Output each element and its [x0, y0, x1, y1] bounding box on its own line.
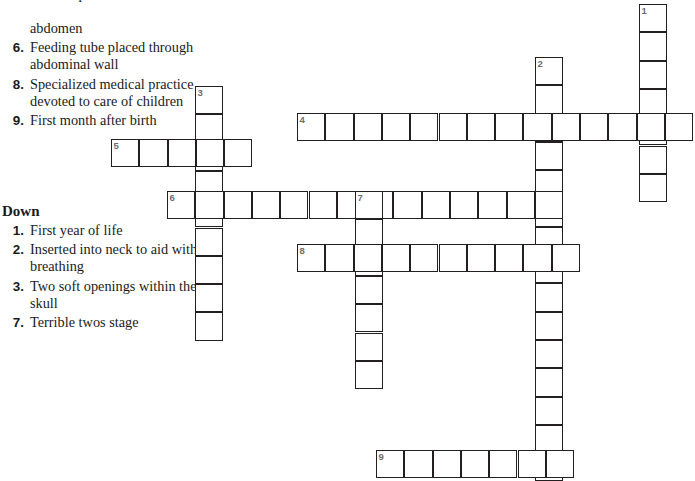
crossword-cell[interactable] — [552, 244, 580, 272]
crossword-cell[interactable] — [439, 244, 467, 272]
crossword-cell[interactable] — [535, 142, 563, 170]
crossword-cell[interactable] — [495, 244, 523, 272]
crossword-cell[interactable] — [552, 113, 580, 141]
crossword-cell[interactable] — [535, 85, 563, 113]
crossword-cell[interactable] — [325, 113, 353, 141]
cell-number: 7 — [358, 192, 363, 203]
crossword-cell[interactable] — [637, 113, 665, 141]
cell-number: 8 — [300, 245, 305, 256]
crossword-cell[interactable] — [195, 312, 223, 340]
crossword-cell[interactable] — [280, 191, 308, 219]
crossword-cell[interactable] — [639, 61, 667, 89]
crossword-cell-start-6[interactable]: 6 — [167, 191, 195, 219]
crossword-cell[interactable] — [195, 228, 223, 256]
crossword-cell-start-9[interactable]: 9 — [376, 450, 404, 478]
cell-number: 5 — [114, 140, 119, 151]
cell-number: 4 — [300, 114, 305, 125]
crossword-cell[interactable] — [439, 113, 467, 141]
crossword-cell-start-7[interactable]: 7 — [355, 191, 383, 219]
crossword-cell[interactable] — [354, 113, 382, 141]
crossword-cell[interactable] — [478, 191, 506, 219]
crossword-cell[interactable] — [535, 191, 563, 219]
crossword-cell[interactable] — [639, 174, 667, 202]
crossword-cell[interactable] — [168, 139, 196, 167]
crossword-cell[interactable] — [665, 113, 693, 141]
crossword-cell[interactable] — [224, 139, 252, 167]
crossword-cell[interactable] — [518, 450, 546, 478]
crossword-cell[interactable] — [546, 450, 574, 478]
crossword-cell[interactable] — [355, 361, 383, 389]
crossword-cell[interactable] — [139, 139, 167, 167]
cell-number: 2 — [538, 58, 543, 69]
crossword-cell[interactable] — [535, 368, 563, 396]
crossword-cell[interactable] — [382, 244, 410, 272]
crossword-cell[interactable] — [196, 139, 224, 167]
crossword-grid[interactable]: 123456789 — [0, 0, 695, 481]
crossword-cell[interactable] — [489, 450, 517, 478]
crossword-cell[interactable] — [393, 191, 421, 219]
crossword-cell[interactable] — [252, 191, 280, 219]
crossword-cell[interactable] — [355, 304, 383, 332]
crossword-cell[interactable] — [354, 244, 382, 272]
crossword-cell-start-4[interactable]: 4 — [297, 113, 325, 141]
crossword-cell[interactable] — [195, 256, 223, 284]
crossword-cell-start-3[interactable]: 3 — [195, 86, 223, 114]
crossword-cell[interactable] — [535, 312, 563, 340]
crossword-cell-start-1[interactable]: 1 — [639, 4, 667, 32]
crossword-cell[interactable] — [580, 113, 608, 141]
crossword-cell[interactable] — [404, 450, 432, 478]
crossword-cell[interactable] — [535, 283, 563, 311]
crossword-cell[interactable] — [535, 425, 563, 453]
crossword-cell[interactable] — [495, 113, 523, 141]
crossword-cell[interactable] — [608, 113, 636, 141]
crossword-cell[interactable] — [410, 113, 438, 141]
crossword-cell[interactable] — [309, 191, 337, 219]
crossword-cell[interactable] — [639, 146, 667, 174]
crossword-cell[interactable] — [422, 191, 450, 219]
crossword-cell[interactable] — [639, 32, 667, 60]
crossword-cell[interactable] — [467, 244, 495, 272]
crossword-cell[interactable] — [382, 113, 410, 141]
cell-number: 3 — [198, 87, 203, 98]
crossword-cell[interactable] — [507, 191, 535, 219]
crossword-cell[interactable] — [325, 244, 353, 272]
cell-number: 9 — [379, 451, 384, 462]
crossword-cell[interactable] — [535, 397, 563, 425]
crossword-cell[interactable] — [523, 244, 551, 272]
crossword-cell-start-2[interactable]: 2 — [535, 57, 563, 85]
crossword-cell[interactable] — [410, 244, 438, 272]
crossword-cell[interactable] — [467, 113, 495, 141]
crossword-cell[interactable] — [195, 191, 223, 219]
crossword-cell[interactable] — [461, 450, 489, 478]
cell-number: 6 — [170, 192, 175, 203]
crossword-cell[interactable] — [523, 113, 551, 141]
crossword-cell[interactable] — [355, 333, 383, 361]
crossword-cell[interactable] — [355, 276, 383, 304]
crossword-cell[interactable] — [195, 284, 223, 312]
crossword-cell[interactable] — [224, 191, 252, 219]
crossword-cell[interactable] — [433, 450, 461, 478]
crossword-cell[interactable] — [535, 340, 563, 368]
crossword-cell-start-8[interactable]: 8 — [297, 244, 325, 272]
cell-number: 1 — [642, 5, 647, 16]
crossword-cell-start-5[interactable]: 5 — [111, 139, 139, 167]
crossword-cell[interactable] — [450, 191, 478, 219]
